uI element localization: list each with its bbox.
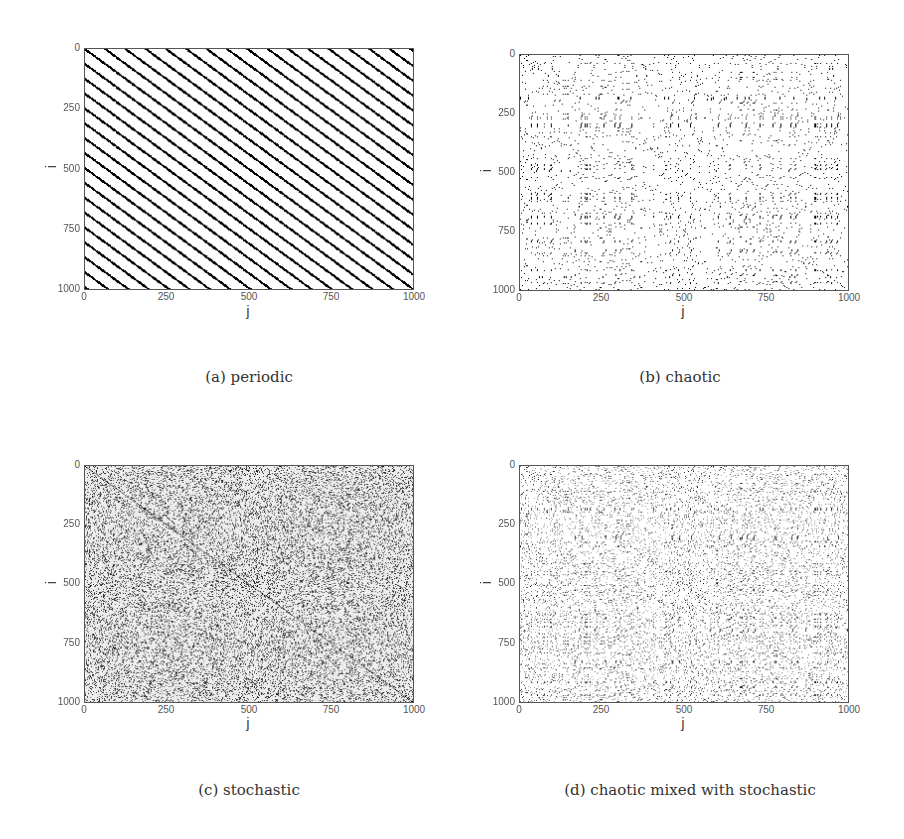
ytick: 250	[481, 519, 515, 529]
ytick: 250	[46, 103, 80, 113]
xtick: 750	[311, 705, 351, 715]
xtick: 0	[499, 293, 539, 303]
xtick: 250	[581, 293, 621, 303]
recurrence-plot-chaotic-stochastic	[519, 465, 849, 703]
x-axis-label: j	[238, 714, 258, 731]
y-axis-label: i	[477, 161, 494, 181]
ytick: 0	[481, 460, 515, 470]
y-axis-label: i	[477, 573, 494, 593]
xtick: 1000	[394, 705, 434, 715]
ytick: 750	[481, 226, 515, 236]
xtick: 1000	[829, 705, 869, 715]
y-axis-label: i	[42, 573, 59, 593]
recurrence-plot-chaotic	[519, 54, 849, 291]
xtick: 750	[311, 292, 351, 302]
recurrence-plot-periodic	[84, 48, 414, 290]
xtick: 750	[746, 293, 786, 303]
x-axis-label: j	[673, 714, 693, 731]
caption-a: (a) periodic	[205, 368, 293, 386]
recurrence-plot-stochastic	[84, 465, 414, 703]
xtick: 250	[146, 292, 186, 302]
caption-d: (d) chaotic mixed with stochastic	[564, 781, 816, 799]
ytick: 0	[46, 460, 80, 470]
ytick: 750	[481, 638, 515, 648]
ytick: 0	[481, 49, 515, 59]
y-axis-label: i	[42, 157, 59, 177]
xtick: 0	[499, 705, 539, 715]
ytick: 0	[46, 43, 80, 53]
ytick: 750	[46, 224, 80, 234]
ytick: 250	[481, 108, 515, 118]
caption-b: (b) chaotic	[639, 368, 720, 386]
xtick: 0	[64, 705, 104, 715]
x-axis-label: j	[238, 302, 258, 319]
xtick: 1000	[394, 292, 434, 302]
caption-c: (c) stochastic	[198, 781, 300, 799]
xtick: 750	[746, 705, 786, 715]
xtick: 250	[581, 705, 621, 715]
xtick: 1000	[829, 293, 869, 303]
xtick: 250	[146, 705, 186, 715]
ytick: 750	[46, 638, 80, 648]
x-axis-label: j	[673, 302, 693, 319]
xtick: 0	[64, 292, 104, 302]
ytick: 250	[46, 519, 80, 529]
xtick: 500	[229, 292, 269, 302]
